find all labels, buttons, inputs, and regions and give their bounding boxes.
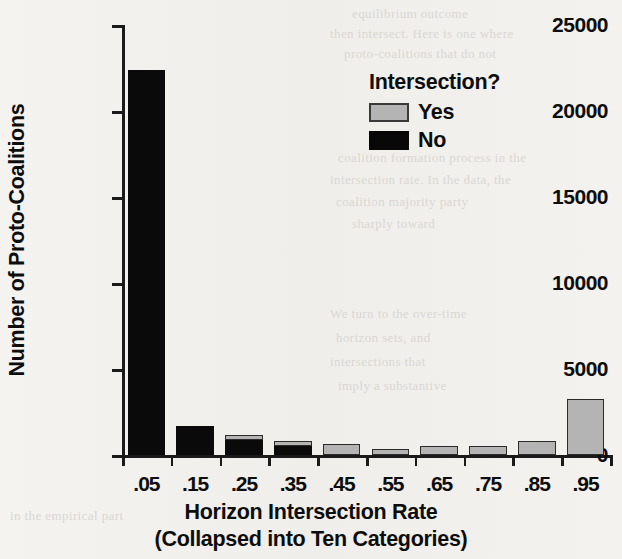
bar-segment-no	[128, 70, 166, 455]
bar-segment-no	[176, 426, 214, 455]
bar[interactable]	[567, 399, 605, 455]
x-tick-label: .15	[171, 473, 220, 494]
y-tick	[112, 455, 122, 458]
y-axis-line	[122, 25, 125, 457]
x-tick	[268, 455, 271, 466]
x-tick-label: .75	[464, 473, 513, 494]
x-tick	[512, 455, 515, 466]
bar[interactable]	[420, 446, 458, 455]
x-tick-label: .85	[512, 473, 561, 494]
legend-label-yes: Yes	[418, 100, 454, 125]
y-tick-label: 15000	[502, 186, 622, 207]
bar[interactable]	[274, 441, 312, 455]
x-tick-label: .35	[268, 473, 317, 494]
bar-segment-yes	[420, 446, 458, 455]
y-tick-label: 25000	[502, 14, 622, 35]
x-axis-subtitle: (Collapsed into Ten Categories)	[0, 527, 622, 552]
y-tick	[112, 25, 122, 28]
bar-segment-yes	[567, 399, 605, 455]
x-tick	[561, 455, 564, 466]
bar[interactable]	[518, 441, 556, 455]
bar-chart-figure: Number of Proto-Coalitions 0500010000150…	[0, 0, 622, 559]
x-tick	[366, 455, 369, 466]
bar[interactable]	[128, 70, 166, 455]
legend: Intersection? Yes No	[369, 70, 500, 156]
bar-segment-yes	[469, 446, 507, 455]
y-axis-title: Number of Proto-Coalitions	[5, 104, 30, 377]
legend-item-yes[interactable]: Yes	[369, 100, 500, 125]
y-tick-label: 5000	[502, 358, 622, 379]
legend-label-no: No	[418, 128, 446, 153]
x-tick	[220, 455, 223, 466]
bar-segment-yes	[274, 441, 312, 446]
x-tick	[610, 455, 613, 466]
legend-swatch-no	[369, 131, 409, 150]
x-tick	[171, 455, 174, 466]
x-axis-title: Horizon Intersection Rate	[0, 500, 622, 525]
x-tick-label: .95	[561, 473, 610, 494]
y-tick	[112, 111, 122, 114]
bar[interactable]	[469, 446, 507, 455]
x-tick-label: .25	[220, 473, 269, 494]
bar-segment-no	[274, 446, 312, 455]
bar-segment-yes	[323, 444, 361, 455]
bar-segment-no	[225, 440, 263, 455]
x-tick	[317, 455, 320, 466]
x-tick-label: .55	[366, 473, 415, 494]
bar[interactable]	[323, 444, 361, 455]
x-tick	[415, 455, 418, 466]
x-tick-label: .45	[317, 473, 366, 494]
x-tick-label: .65	[415, 473, 464, 494]
y-tick-label: 10000	[502, 272, 622, 293]
bar[interactable]	[225, 435, 263, 455]
legend-title: Intersection?	[369, 70, 500, 95]
x-tick	[122, 455, 125, 466]
y-tick	[112, 283, 122, 286]
legend-item-no[interactable]: No	[369, 128, 500, 153]
x-tick	[464, 455, 467, 466]
y-tick	[112, 369, 122, 372]
bar-segment-yes	[372, 449, 410, 455]
bar[interactable]	[176, 426, 214, 455]
bar[interactable]	[372, 449, 410, 455]
legend-swatch-yes	[369, 103, 409, 122]
y-tick-label: 20000	[502, 100, 622, 121]
bar-segment-yes	[225, 435, 263, 439]
x-tick-label: .05	[122, 473, 171, 494]
y-tick	[112, 197, 122, 200]
bar-segment-yes	[518, 441, 556, 455]
